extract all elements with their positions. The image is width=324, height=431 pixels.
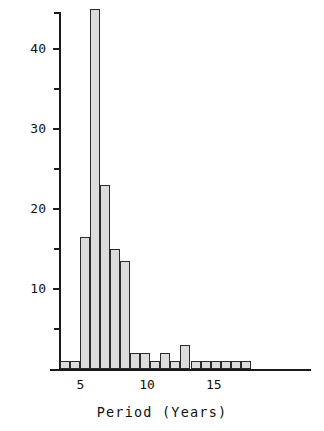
y-axis-tick-label: 20	[6, 202, 46, 215]
x-axis-tick-label: 5	[60, 378, 100, 391]
y-axis-line	[59, 12, 61, 371]
y-axis-tick-label: 40	[6, 42, 46, 55]
x-axis-tick-label: 15	[194, 378, 234, 391]
y-axis-tick	[53, 208, 59, 210]
histogram-bar	[211, 361, 221, 369]
x-axis-title: Period (Years)	[0, 404, 324, 420]
y-axis-tick	[53, 288, 59, 290]
histogram-bar	[241, 361, 251, 369]
histogram-bar	[180, 345, 190, 369]
y-axis-tick-label: 10	[6, 282, 46, 295]
x-axis-line	[50, 369, 311, 371]
histogram-bar	[150, 361, 160, 369]
x-axis-tick-label: 10	[127, 378, 167, 391]
histogram-bar	[100, 185, 110, 369]
histogram-bar	[110, 249, 120, 369]
y-axis-minor-tick	[54, 328, 59, 330]
histogram-bar	[170, 361, 180, 369]
histogram-bar	[130, 353, 140, 369]
y-axis-tick-label: 30	[6, 122, 46, 135]
plot-area: 10203040 51015	[59, 12, 310, 370]
histogram-bar	[120, 261, 130, 369]
histogram-bar	[70, 361, 80, 369]
histogram-bar	[191, 361, 201, 369]
histogram-bar	[80, 237, 90, 369]
histogram-bar	[160, 353, 170, 369]
y-axis-top-cap	[54, 12, 61, 14]
histogram-bar	[201, 361, 211, 369]
histogram-bar	[60, 361, 70, 369]
chart-figure: 10203040 51015 Period (Years) Comet Coun…	[0, 0, 324, 431]
y-axis-minor-tick	[54, 168, 59, 170]
y-axis-minor-tick	[54, 88, 59, 90]
y-axis-minor-tick	[54, 248, 59, 250]
y-axis-tick	[53, 128, 59, 130]
y-axis-tick	[53, 48, 59, 50]
histogram-bar	[140, 353, 150, 369]
histogram-bar	[221, 361, 231, 369]
histogram-bar	[90, 9, 100, 369]
histogram-bar	[231, 361, 241, 369]
